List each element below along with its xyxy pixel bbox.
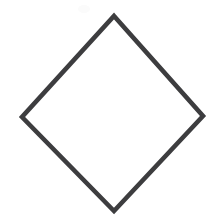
diamond-figure [0, 0, 211, 215]
drawing-canvas [0, 0, 211, 215]
scan-smudge-artifact [78, 5, 90, 13]
